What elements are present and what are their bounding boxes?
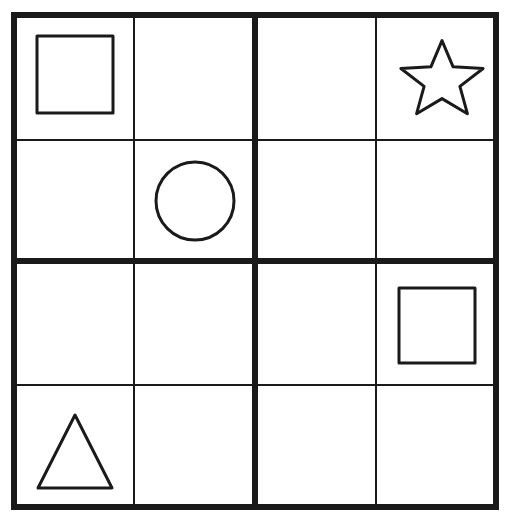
shape-grid-figure bbox=[0, 0, 508, 519]
cell-r1c3[interactable] bbox=[259, 18, 373, 137]
cell-r4c2[interactable] bbox=[137, 388, 252, 504]
cell-r2c2[interactable] bbox=[137, 143, 252, 258]
cell-r2c4[interactable] bbox=[379, 143, 493, 258]
cell-r1c1[interactable] bbox=[17, 18, 131, 137]
cell-r2c1[interactable] bbox=[17, 143, 131, 258]
cell-r1c2[interactable] bbox=[137, 18, 252, 137]
cell-r1c4[interactable] bbox=[379, 18, 493, 137]
cell-r4c4[interactable] bbox=[379, 388, 493, 504]
cell-r4c1[interactable] bbox=[17, 388, 131, 504]
cell-r3c1[interactable] bbox=[17, 265, 131, 382]
cell-r4c3[interactable] bbox=[259, 388, 373, 504]
cell-r3c3[interactable] bbox=[259, 265, 373, 382]
cell-r3c2[interactable] bbox=[137, 265, 252, 382]
cell-r2c3[interactable] bbox=[259, 143, 373, 258]
cell-r3c4[interactable] bbox=[379, 265, 493, 382]
